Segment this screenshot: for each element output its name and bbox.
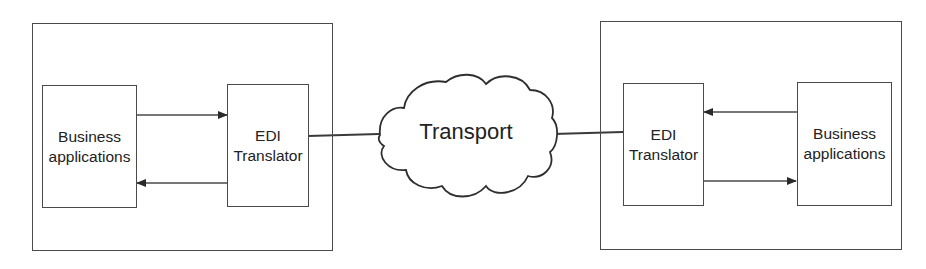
right-edi-translator-box: EDI Translator [623, 83, 704, 206]
transport-label: Transport [378, 118, 554, 146]
left-business-applications-box: Business applications [42, 85, 137, 208]
right-business-applications-box: Business applications [797, 82, 892, 206]
left-edi-translator-box: EDI Translator [227, 84, 309, 207]
left-business-label-line2: applications [49, 147, 131, 167]
edi-diagram: Business applications EDI Translator EDI… [0, 0, 926, 269]
right-business-label-line2: applications [804, 144, 886, 164]
right-business-label-line1: Business [813, 124, 876, 144]
left-business-label-line1: Business [58, 127, 121, 147]
right-translator-label-line2: Translator [629, 145, 698, 165]
left-translator-label-line1: EDI [255, 126, 281, 146]
right-translator-label-line1: EDI [651, 125, 677, 145]
left-translator-label-line2: Translator [233, 146, 302, 166]
